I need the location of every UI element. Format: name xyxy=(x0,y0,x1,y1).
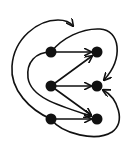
edge-L1-R3-curve xyxy=(28,52,91,116)
edge-L3-outer-curve xyxy=(12,20,73,119)
node-L2 xyxy=(46,81,57,92)
edge-L1-R2-curve xyxy=(51,29,117,80)
node-L1 xyxy=(46,47,57,58)
node-R3 xyxy=(92,114,103,125)
edge-L3-R2-curve xyxy=(51,90,119,136)
directed-graph-diagram xyxy=(0,0,131,154)
node-R2 xyxy=(92,81,103,92)
node-R1 xyxy=(92,47,103,58)
edge-L2-R3 xyxy=(51,86,91,115)
node-L3 xyxy=(46,114,57,125)
edge-L2-R1 xyxy=(51,56,92,86)
